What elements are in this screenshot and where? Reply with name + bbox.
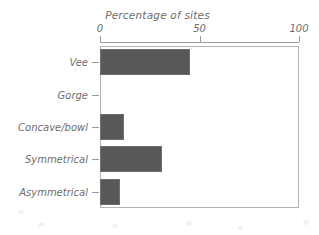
x-tick-label-100: 100	[289, 23, 308, 34]
x-axis-line	[100, 42, 299, 43]
y-tick-asymmetrical	[92, 192, 99, 193]
y-tick-label-asymmetrical: Asymmetrical	[19, 186, 88, 197]
x-tick-0	[100, 36, 101, 42]
scan-artifact	[112, 224, 118, 228]
x-tick-label-0: 0	[97, 23, 103, 34]
y-tick-vee	[92, 62, 99, 63]
scan-artifact	[38, 222, 45, 227]
bar-asymmetrical	[100, 179, 120, 205]
bar-concave-bowl	[100, 114, 124, 140]
y-tick-label-vee: Vee	[69, 57, 88, 68]
y-tick-concave-bowl	[92, 127, 99, 128]
bar-vee	[100, 49, 190, 75]
y-tick-symmetrical	[92, 159, 99, 160]
x-tick-label-50: 50	[193, 23, 206, 34]
scan-artifact	[303, 220, 309, 225]
x-tick-50	[200, 36, 201, 42]
y-tick-label-symmetrical: Symmetrical	[25, 154, 88, 165]
y-tick-gorge	[92, 95, 99, 96]
scan-artifact	[186, 221, 192, 226]
bar-symmetrical	[100, 146, 162, 172]
y-tick-label-concave-bowl: Concave/bowl	[18, 122, 88, 133]
y-tick-label-gorge: Gorge	[58, 89, 88, 100]
chart-figure: Percentage of sites 050100 VeeGorgeConca…	[0, 0, 319, 235]
x-tick-100	[299, 36, 300, 42]
scan-artifact	[18, 210, 24, 214]
scan-artifact	[238, 226, 243, 230]
chart-title: Percentage of sites	[0, 9, 319, 21]
